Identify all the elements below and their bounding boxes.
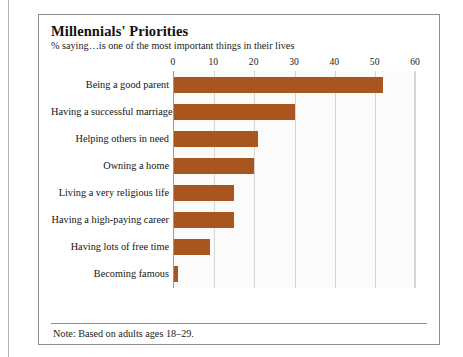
note-divider	[51, 323, 427, 324]
category-labels: Being a good parentHaving a successful m…	[51, 71, 169, 288]
bar	[174, 131, 258, 147]
bar	[174, 185, 234, 201]
bar	[174, 77, 383, 93]
figure-frame: Millennials' Priorities % saying…is one …	[38, 14, 440, 345]
bar-slot	[174, 152, 415, 179]
category-label: Living a very religious life	[51, 187, 169, 199]
category-label: Having a successful marriage	[51, 106, 169, 118]
plot-region: 0102030405060 Being a good parentHaving …	[51, 56, 429, 304]
category-label: Having a high-paying career	[51, 214, 169, 226]
bar	[174, 239, 210, 255]
x-axis-ticks: 0102030405060	[173, 56, 415, 71]
bar-slot	[174, 207, 415, 234]
bar	[174, 158, 254, 174]
category-label: Having lots of free time	[51, 241, 169, 253]
bar-slot	[174, 98, 415, 125]
x-axis-tick-label: 30	[289, 56, 299, 67]
bar	[174, 104, 295, 120]
plot-area	[173, 71, 415, 288]
x-axis-tick-label: 10	[209, 56, 219, 67]
chart-title: Millennials' Priorities	[51, 23, 429, 39]
x-axis-tick-label: 20	[249, 56, 259, 67]
bars-layer	[174, 71, 415, 288]
category-label: Being a good parent	[51, 79, 169, 91]
x-axis-tick-label: 0	[171, 56, 176, 67]
bar-slot	[174, 125, 415, 152]
bar-slot	[174, 180, 415, 207]
bar	[174, 212, 234, 228]
figure-inner: Millennials' Priorities % saying…is one …	[49, 23, 429, 338]
bar-slot	[174, 71, 415, 98]
category-label: Helping others in need	[51, 133, 169, 145]
x-axis-tick-label: 40	[330, 56, 340, 67]
bar-slot	[174, 261, 415, 288]
chart-subtitle: % saying…is one of the most important th…	[51, 40, 429, 52]
category-label: Owning a home	[51, 160, 169, 172]
x-axis-tick-label: 50	[370, 56, 380, 67]
bar-slot	[174, 234, 415, 261]
gridline	[415, 71, 416, 288]
page-gutter-rule	[8, 0, 9, 357]
chart-note: Note: Based on adults ages 18–29.	[53, 328, 194, 339]
category-label: Becoming famous	[51, 268, 169, 280]
bar	[174, 266, 178, 282]
x-axis-tick-label: 60	[410, 56, 420, 67]
